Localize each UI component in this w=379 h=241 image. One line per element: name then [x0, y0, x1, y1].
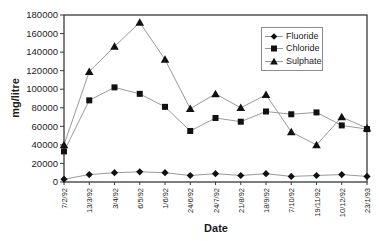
data-point-fluoride-5 — [187, 172, 194, 179]
x-tick-label: 19/11/92 — [313, 188, 322, 217]
x-tick-label: 13/3/92 — [85, 188, 94, 213]
x-tick-label: 7/10/92 — [287, 188, 296, 213]
data-point-sulphate-4 — [161, 55, 170, 63]
data-point-chloride-4 — [162, 104, 168, 110]
data-point-chloride-8 — [263, 108, 269, 114]
y-tick-label: 40000 — [32, 139, 58, 150]
x-tick-label: 24/7/92 — [212, 188, 221, 213]
data-point-fluoride-2 — [111, 169, 118, 176]
data-point-fluoride-3 — [136, 168, 143, 175]
x-tick-label: 18/9/92 — [262, 188, 271, 213]
data-point-chloride-7 — [238, 119, 244, 125]
data-point-sulphate-7 — [236, 104, 245, 112]
y-axis-title: mg/litre — [9, 78, 21, 118]
data-point-sulphate-12 — [363, 124, 372, 132]
data-point-sulphate-11 — [337, 113, 346, 121]
data-point-sulphate-6 — [211, 90, 220, 98]
x-tick-label: 10/12/92 — [338, 188, 347, 217]
data-point-fluoride-4 — [161, 169, 168, 176]
line-chart-figure: 0200004000060000800001000001200001400001… — [0, 0, 379, 241]
fluoride-marker-icon — [265, 32, 283, 41]
x-tick-label: 24/6/92 — [186, 188, 195, 213]
data-point-sulphate-9 — [287, 128, 296, 136]
x-tick-label: 1/6/92 — [161, 188, 170, 209]
legend: Fluoride Chloride Sulphate — [261, 27, 323, 71]
data-point-sulphate-3 — [135, 18, 144, 26]
data-point-chloride-0 — [61, 148, 67, 154]
legend-item-chloride: Chloride — [265, 43, 320, 56]
x-tick-label: 7/2/92 — [60, 188, 69, 209]
x-tick-label: 6/5/92 — [136, 188, 145, 209]
data-point-fluoride-1 — [86, 171, 93, 178]
x-tick-label: 3/4/92 — [111, 188, 120, 209]
legend-item-fluoride: Fluoride — [265, 30, 320, 43]
x-tick-label: 21/8/92 — [237, 188, 246, 213]
data-point-sulphate-8 — [262, 91, 271, 99]
legend-label-sulphate: Sulphate — [286, 57, 322, 66]
data-point-chloride-1 — [86, 97, 92, 103]
y-tick-label: 0 — [53, 176, 58, 187]
data-point-chloride-11 — [339, 122, 345, 128]
data-point-fluoride-10 — [313, 172, 320, 179]
chloride-marker-icon — [265, 44, 283, 53]
y-tick-label: 140000 — [26, 46, 58, 57]
data-point-chloride-9 — [288, 111, 294, 117]
x-axis-title: Date — [204, 222, 228, 234]
legend-item-sulphate: Sulphate — [265, 55, 320, 68]
data-point-chloride-6 — [213, 115, 219, 121]
y-tick-label: 80000 — [32, 102, 58, 113]
y-tick-label: 120000 — [26, 65, 58, 76]
x-tick-label: 23/1/93 — [363, 188, 372, 213]
legend-label-fluoride: Fluoride — [286, 32, 319, 41]
y-tick-label: 20000 — [32, 158, 58, 169]
sulphate-marker-icon — [265, 57, 283, 66]
data-point-sulphate-5 — [186, 105, 195, 113]
y-tick-label: 180000 — [26, 9, 58, 20]
data-point-chloride-2 — [112, 84, 118, 90]
y-tick-label: 60000 — [32, 121, 58, 132]
data-point-fluoride-8 — [262, 170, 269, 177]
legend-label-chloride: Chloride — [286, 44, 320, 53]
data-point-fluoride-9 — [288, 173, 295, 180]
data-point-chloride-3 — [137, 91, 143, 97]
data-point-chloride-5 — [187, 128, 193, 134]
data-point-fluoride-12 — [363, 173, 370, 180]
y-tick-label: 160000 — [26, 28, 58, 39]
y-tick-label: 100000 — [26, 83, 58, 94]
data-point-chloride-10 — [314, 109, 320, 115]
data-point-fluoride-6 — [212, 170, 219, 177]
data-point-fluoride-11 — [338, 171, 345, 178]
data-point-fluoride-7 — [237, 172, 244, 179]
